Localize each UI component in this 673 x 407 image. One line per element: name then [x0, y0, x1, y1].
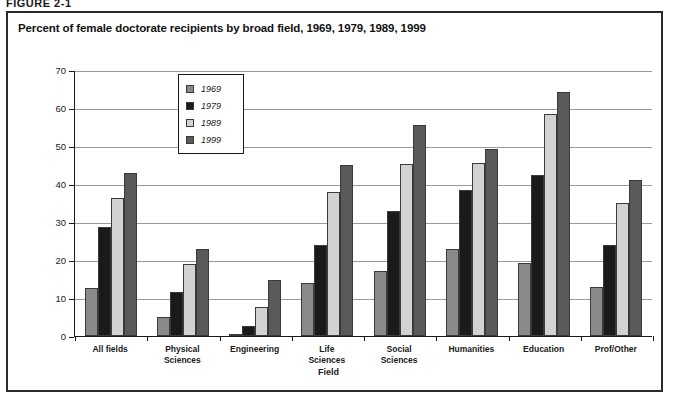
- bar: [485, 149, 498, 336]
- y-axis-tick-mark: [69, 337, 74, 338]
- bar: [400, 164, 413, 336]
- x-axis-tick-mark: [147, 336, 148, 341]
- bar: [327, 192, 340, 336]
- plot-area: [74, 71, 652, 337]
- x-axis-tick-mark: [581, 336, 582, 341]
- x-axis-category-label: SocialSciences: [363, 344, 435, 365]
- bar-group: [364, 71, 436, 336]
- y-axis-tick-label: 0: [28, 331, 66, 342]
- legend-item: 1979: [186, 97, 237, 114]
- bar: [459, 190, 472, 336]
- bar: [229, 334, 242, 336]
- bar: [111, 198, 124, 336]
- bar: [340, 165, 353, 336]
- x-axis-tick-mark: [364, 336, 365, 341]
- x-axis-category-labels: All fieldsPhysicalSciencesEngineeringLif…: [74, 344, 652, 365]
- x-axis-tick-mark: [653, 336, 654, 341]
- bar: [314, 245, 327, 336]
- figure-page: FIGURE 2-1 Percent of female doctorate r…: [0, 0, 673, 407]
- bar: [157, 317, 170, 336]
- x-axis-title: Field: [0, 367, 657, 377]
- bar: [531, 175, 544, 337]
- x-axis-category-label: Humanities: [435, 344, 507, 365]
- figure-caption: [10, 394, 673, 405]
- legend-swatch-icon: [186, 85, 194, 93]
- bar: [544, 114, 557, 336]
- x-axis-category-label: All fields: [74, 344, 146, 365]
- x-axis-tick-mark: [509, 336, 510, 341]
- bar: [518, 263, 531, 336]
- bar: [603, 245, 616, 336]
- x-axis-tick-mark: [75, 336, 76, 341]
- legend-box: 1969197919891999: [178, 74, 244, 154]
- bar-group: [75, 71, 147, 336]
- bar-group: [508, 71, 580, 336]
- x-axis-category-label: PhysicalSciences: [146, 344, 218, 365]
- y-axis-tick-label: 50: [28, 141, 66, 152]
- legend-label: 1989: [201, 118, 221, 128]
- x-axis-category-label: Engineering: [219, 344, 291, 365]
- bar: [242, 326, 255, 336]
- y-axis-tick-label: 10: [28, 293, 66, 304]
- bar-groups: [75, 71, 652, 336]
- bar: [472, 163, 485, 336]
- x-axis-tick-mark: [292, 336, 293, 341]
- bar: [446, 249, 459, 336]
- figure-number-label: FIGURE 2-1: [6, 0, 72, 8]
- bar: [268, 280, 281, 336]
- bar: [196, 249, 209, 336]
- legend-label: 1999: [201, 135, 221, 145]
- bar-group: [291, 71, 363, 336]
- x-axis-tick-mark: [436, 336, 437, 341]
- bar: [124, 173, 137, 336]
- y-axis-tick-label: 70: [28, 65, 66, 76]
- legend-swatch-icon: [186, 119, 194, 127]
- bar: [629, 180, 642, 336]
- x-axis-category-label: Education: [508, 344, 580, 365]
- bar: [255, 307, 268, 336]
- bar: [183, 264, 196, 336]
- bar: [590, 287, 603, 336]
- bar-group: [436, 71, 508, 336]
- bar-group: [580, 71, 652, 336]
- y-axis-tick-label: 20: [28, 255, 66, 266]
- legend-item: 1989: [186, 114, 237, 131]
- legend-label: 1979: [201, 101, 221, 111]
- y-axis-tick-label: 30: [28, 217, 66, 228]
- y-axis-tick-label: 60: [28, 103, 66, 114]
- x-axis-category-label: Prof/Other: [580, 344, 652, 365]
- bar: [413, 125, 426, 336]
- bar: [616, 203, 629, 336]
- bar: [387, 211, 400, 336]
- legend-item: 1999: [186, 131, 237, 148]
- bar: [374, 271, 387, 336]
- legend-item: 1969: [186, 80, 237, 97]
- bar: [98, 227, 111, 336]
- bar: [170, 292, 183, 336]
- bar: [301, 283, 314, 336]
- x-axis-category-label: LifeSciences: [291, 344, 363, 365]
- bar: [85, 288, 98, 336]
- legend-swatch-icon: [186, 136, 194, 144]
- figure-title: Percent of female doctorate recipients b…: [18, 22, 426, 34]
- legend-swatch-icon: [186, 102, 194, 110]
- x-axis-tick-mark: [220, 336, 221, 341]
- bar: [557, 92, 570, 336]
- legend-label: 1969: [201, 84, 221, 94]
- y-axis-tick-label: 40: [28, 179, 66, 190]
